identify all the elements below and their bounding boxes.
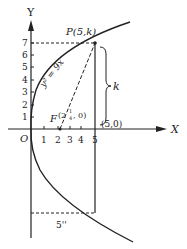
k-brace xyxy=(100,47,111,125)
y-tick-3: 3 xyxy=(22,87,28,97)
x-tick-2: 2 xyxy=(55,135,61,145)
base-point-label: (5,0) xyxy=(101,119,122,129)
svg-text:F: F xyxy=(49,113,58,124)
y-axis-label: Y xyxy=(26,6,35,19)
y-tick-5: 5 xyxy=(22,62,28,72)
svg-text:1: 1 xyxy=(69,108,72,114)
svg-text:(2: (2 xyxy=(58,111,66,120)
equation-label: y² = 9x xyxy=(37,57,66,90)
x-tick-3: 3 xyxy=(67,135,73,145)
svg-text:4: 4 xyxy=(69,115,72,121)
k-label: k xyxy=(113,80,120,93)
svg-text:, 0): , 0) xyxy=(73,111,86,120)
parabola-curve xyxy=(31,22,133,242)
y-tick-2: 2 xyxy=(22,100,28,110)
bottom-label: 5'' xyxy=(56,220,67,230)
y-tick-1: 1 xyxy=(22,112,28,122)
y-axis-arrow-icon xyxy=(28,20,34,31)
y-tick-4: 4 xyxy=(22,75,28,85)
origin-label: O xyxy=(20,133,28,144)
x-axis-arrow-icon xyxy=(156,126,167,132)
y-tick-6: 6 xyxy=(22,50,28,60)
point-p-label: P(5,k) xyxy=(65,26,96,37)
x-tick-1: 1 xyxy=(41,135,47,145)
point-p xyxy=(93,41,97,45)
parabola-diagram: Y X O 1 2 3 4 5 1 2 3 4 5 6 7 k xyxy=(0,0,187,249)
x-tick-4: 4 xyxy=(78,135,84,145)
x-axis-label: X xyxy=(170,123,180,136)
y-tick-7: 7 xyxy=(22,38,28,48)
point-focus xyxy=(58,127,61,130)
